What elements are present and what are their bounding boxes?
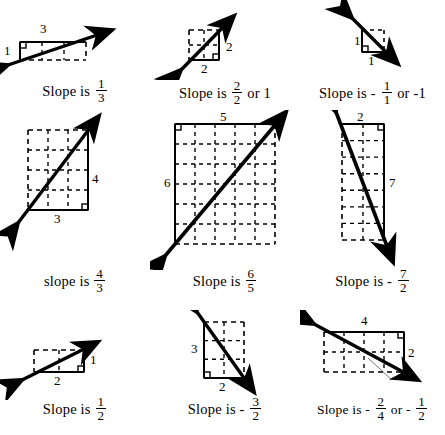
numerator: 3 <box>250 395 261 408</box>
figure-cell-slope-six-fifths: 5 6 Slope is 6 5 <box>150 110 300 310</box>
caption-prefix: Slope is <box>188 401 236 417</box>
run-label: 2 <box>54 374 61 387</box>
fraction: 6 5 <box>246 267 257 295</box>
rise-label: 3 <box>191 342 198 355</box>
figure-cell-slope-two-over-two: 2 2 Slope is 2 2 or 1 <box>150 0 300 110</box>
run-label: 2 <box>201 62 208 75</box>
slope-diagram-one-third <box>0 0 150 75</box>
rise-label: 2 <box>408 346 415 359</box>
denominator: 5 <box>246 280 257 294</box>
numerator: 2 <box>232 79 243 92</box>
numerator: 1 <box>96 395 107 408</box>
caption-prefix: Slope is <box>317 402 362 417</box>
caption-slope-four-thirds: slope is 4 3 <box>0 268 150 296</box>
fraction: 4 3 <box>94 267 105 295</box>
figure-cell-slope-four-thirds: 4 3 slope is 4 3 <box>0 110 150 310</box>
rise-label: 1 <box>90 353 97 366</box>
numerator: 4 <box>94 267 105 280</box>
figure-cell-slope-one-third: 3 1 Slope is 1 3 <box>0 0 150 110</box>
denominator: 2 <box>96 408 107 422</box>
caption-slope-one-third: Slope is 1 3 <box>0 78 150 106</box>
caption-slope-negative-three-halves: Slope is - 3 2 <box>150 396 300 424</box>
fraction: 1 3 <box>96 77 107 105</box>
numerator: 2 <box>376 395 387 408</box>
slope-diagram-one-half <box>0 310 150 400</box>
slope-diagram-six-fifths <box>150 110 300 270</box>
slope-diagram-two-over-two <box>150 0 300 80</box>
run-label: 2 <box>357 110 364 123</box>
denominator: 1 <box>382 92 393 106</box>
slope-diagram-negative-seven-halves <box>300 110 445 270</box>
caption-prefix: slope is <box>44 273 90 289</box>
alt-fraction: 1 2 <box>416 395 427 423</box>
slope-diagram-negative-two-fourths <box>300 310 445 400</box>
numerator: 1 <box>382 79 393 92</box>
caption-prefix: Slope is <box>43 401 91 417</box>
run-label: 3 <box>54 212 61 225</box>
alt-value: or -1 <box>397 85 426 101</box>
rise-label: 6 <box>164 176 171 189</box>
run-label: 5 <box>220 110 227 123</box>
fraction: 7 2 <box>398 267 409 295</box>
fraction: 2 4 <box>376 395 387 423</box>
sign: - <box>371 85 376 101</box>
alt-connector: or <box>391 402 403 417</box>
rise-label: 2 <box>226 40 233 53</box>
denominator: 3 <box>94 280 105 294</box>
fraction: 3 2 <box>250 395 261 423</box>
denominator: 2 <box>232 92 243 106</box>
figure-cell-slope-negative-three-halves: 3 2 Slope is - 3 2 <box>150 310 300 435</box>
caption-slope-negative-one: Slope is - 1 1 or -1 <box>300 80 445 108</box>
run-label: 2 <box>219 380 226 393</box>
caption-prefix: Slope is <box>319 85 367 101</box>
fraction: 1 1 <box>382 79 393 107</box>
numerator: 7 <box>398 267 409 280</box>
caption-slope-negative-seven-halves: Slope is - 7 2 <box>300 268 445 296</box>
sign: - <box>365 402 370 417</box>
rise-label: 7 <box>389 176 396 189</box>
sign: - <box>240 401 245 417</box>
denominator: 4 <box>376 408 387 422</box>
denominator: 2 <box>398 280 409 294</box>
sign: - <box>387 273 392 289</box>
run-label: 1 <box>368 54 375 67</box>
alt-value: or 1 <box>247 85 271 101</box>
caption-prefix: Slope is <box>179 85 227 101</box>
alt-denominator: 2 <box>416 408 427 422</box>
numerator: 1 <box>96 77 107 90</box>
caption-prefix: Slope is <box>42 83 90 99</box>
caption-prefix: Slope is <box>335 273 383 289</box>
run-label: 3 <box>40 22 47 35</box>
denominator: 3 <box>96 90 107 104</box>
caption-prefix: Slope is <box>193 273 241 289</box>
figure-cell-slope-negative-two-fourths: 4 2 Slope is - 2 4 or - 1 2 <box>300 310 445 435</box>
fraction: 1 2 <box>96 395 107 423</box>
caption-slope-six-fifths: Slope is 6 5 <box>150 268 300 296</box>
alt-sign: - <box>406 402 411 417</box>
caption-slope-two-over-two: Slope is 2 2 or 1 <box>150 80 300 108</box>
slope-figures-grid: 3 1 Slope is 1 3 2 <box>0 0 445 435</box>
alt-numerator: 1 <box>416 395 427 408</box>
figure-cell-slope-one-half: 1 2 Slope is 1 2 <box>0 310 150 435</box>
run-label: 4 <box>361 314 368 327</box>
rise-label: 1 <box>4 44 11 57</box>
rise-label: 4 <box>92 172 99 185</box>
slope-diagram-negative-one <box>300 0 445 80</box>
figure-cell-slope-negative-one: 1 1 Slope is - 1 1 or -1 <box>300 0 445 110</box>
caption-slope-negative-two-fourths: Slope is - 2 4 or - 1 2 <box>300 396 445 424</box>
caption-slope-one-half: Slope is 1 2 <box>0 396 150 424</box>
fraction: 2 2 <box>232 79 243 107</box>
numerator: 6 <box>246 267 257 280</box>
rise-label: 1 <box>354 34 361 47</box>
denominator: 2 <box>250 408 261 422</box>
figure-cell-slope-negative-seven-halves: 2 7 Slope is - 7 2 <box>300 110 445 310</box>
slope-diagram-four-thirds <box>0 110 150 270</box>
